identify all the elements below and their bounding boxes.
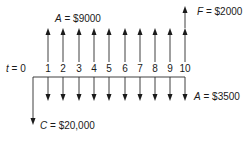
tick-labels: 1 2 3 4 5 6 7 8 9 10 <box>45 63 191 74</box>
tick-label: 2 <box>60 63 66 74</box>
cash-flow-diagram: A = $9000 F = $2000 t = 0 1 2 3 4 5 6 7 … <box>0 0 252 141</box>
expense-arrows <box>46 77 188 101</box>
expense-label: A = $3500 <box>193 91 240 102</box>
salvage-label: F = $2000 <box>197 6 243 17</box>
tick-label: 7 <box>137 63 143 74</box>
income-arrows <box>46 28 188 62</box>
tick-label: 9 <box>167 63 173 74</box>
initial-cost-label: C = $20,000 <box>40 120 95 131</box>
initial-cost-arrow <box>31 77 36 125</box>
tick-label: 5 <box>106 63 112 74</box>
income-label: A = $9000 <box>54 13 101 24</box>
tick-label: 4 <box>91 63 97 74</box>
tick-label: 10 <box>179 63 191 74</box>
tick-label: 3 <box>76 63 82 74</box>
salvage-arrow <box>183 6 188 28</box>
time-axis-label: t = 0 <box>6 63 26 74</box>
tick-label: 6 <box>122 63 128 74</box>
tick-label: 8 <box>152 63 158 74</box>
tick-label: 1 <box>45 63 51 74</box>
